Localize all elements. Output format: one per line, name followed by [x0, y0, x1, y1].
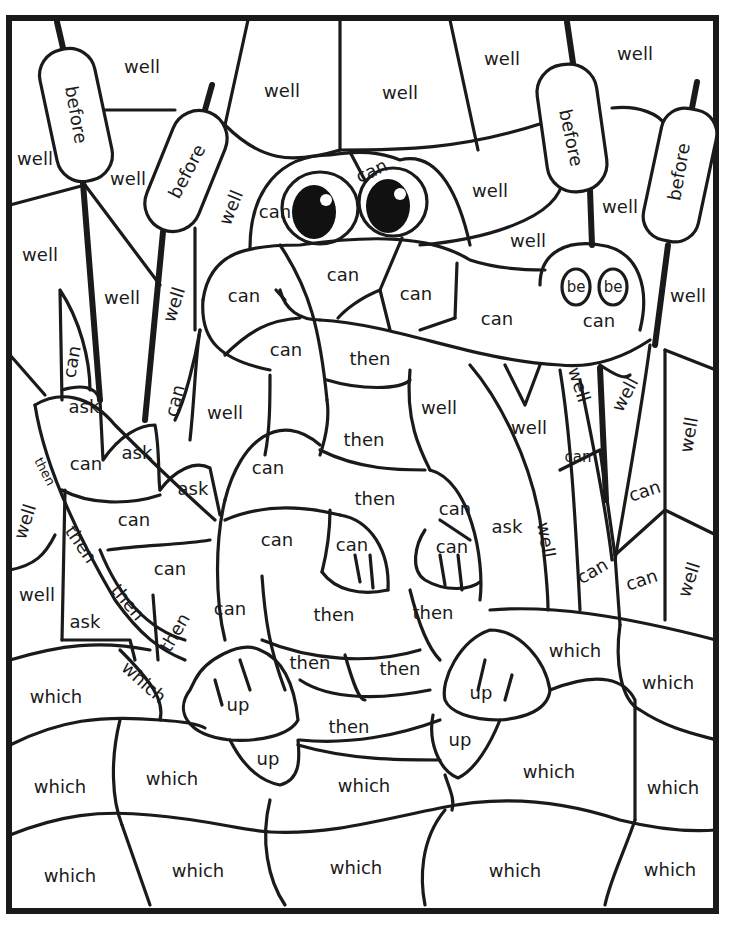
word-label-can: can	[583, 310, 615, 331]
word-label-well: well	[511, 417, 547, 438]
word-label-can: can	[228, 285, 260, 306]
left-pupil	[292, 185, 336, 239]
word-label-can: can	[118, 509, 150, 530]
word-label-can: can	[259, 201, 291, 222]
word-label-then: then	[344, 429, 385, 450]
word-label-well: well	[533, 520, 560, 559]
coloring-sheet: wellwellwellwellwellbeforebeforebeforebe…	[0, 0, 733, 930]
word-label-then: then	[314, 604, 355, 625]
word-label-then: then	[155, 609, 194, 655]
word-label-well: well	[510, 230, 546, 251]
word-label-then: then	[290, 652, 331, 673]
word-label-which: which	[338, 775, 390, 796]
word-label-well: well	[564, 364, 595, 405]
word-label-can: can	[58, 344, 84, 379]
word-label-well: well	[675, 415, 702, 454]
word-label-be: be	[567, 278, 586, 296]
word-label-can: can	[214, 598, 246, 619]
word-label-which: which	[172, 860, 224, 881]
word-label-well: well	[158, 284, 189, 325]
word-label-well: well	[214, 187, 247, 228]
word-label-can: can	[70, 453, 102, 474]
crocodile-illustration: wellwellwellwellwellbeforebeforebeforebe…	[0, 0, 733, 930]
word-label-well: well	[670, 285, 706, 306]
word-label-can: can	[336, 534, 368, 555]
word-label-can: can	[481, 308, 513, 329]
word-label-then: then	[380, 658, 421, 679]
word-label-then: then	[350, 348, 391, 369]
word-label-up: up	[257, 748, 280, 769]
word-label-which: which	[523, 761, 575, 782]
word-label-which: which	[34, 776, 86, 797]
word-label-can: can	[400, 283, 432, 304]
word-label-can: can	[439, 498, 471, 519]
word-label-well: well	[617, 43, 653, 64]
word-label-well: well	[673, 559, 704, 600]
word-label-well: well	[22, 244, 58, 265]
word-label-which: which	[642, 672, 694, 693]
word-label-be: be	[604, 278, 623, 296]
word-label-well: well	[207, 402, 243, 423]
word-label-well: well	[124, 56, 160, 77]
word-label-well: well	[602, 196, 638, 217]
word-label-well: well	[472, 180, 508, 201]
word-label-ask: ask	[178, 478, 209, 499]
word-label-which: which	[489, 860, 541, 881]
word-label-well: well	[264, 80, 300, 101]
word-label-up: up	[449, 729, 472, 750]
right-pupil	[366, 179, 410, 233]
word-label-can: can	[154, 558, 186, 579]
word-label-then: then	[355, 488, 396, 509]
word-label-which: which	[549, 640, 601, 661]
word-label-ask: ask	[122, 442, 153, 463]
word-label-which: which	[146, 768, 198, 789]
word-label-then: then	[329, 716, 370, 737]
word-label-can: can	[270, 339, 302, 360]
word-label-ask: ask	[492, 516, 523, 537]
word-label-well: well	[19, 584, 55, 605]
word-label-which: which	[644, 859, 696, 880]
word-label-which: which	[647, 777, 699, 798]
word-label-which: which	[330, 857, 382, 878]
word-label-well: well	[110, 168, 146, 189]
word-label-well: well	[484, 48, 520, 69]
word-label-can: can	[261, 529, 293, 550]
word-label-well: well	[421, 397, 457, 418]
word-label-well: well	[17, 148, 53, 169]
word-label-well: well	[382, 82, 418, 103]
word-label-then: then	[413, 602, 454, 623]
word-label-can: can	[623, 565, 660, 595]
word-label-can: can	[327, 264, 359, 285]
word-label-well: well	[104, 287, 140, 308]
word-label-then: then	[31, 455, 58, 488]
word-label-can: can	[252, 457, 284, 478]
word-label-can: can	[626, 476, 663, 506]
word-label-can: can	[565, 448, 592, 466]
word-label-then: then	[61, 521, 102, 567]
word-label-up: up	[227, 694, 250, 715]
word-label-up: up	[470, 682, 493, 703]
word-label-can: can	[160, 382, 189, 419]
word-label-can: can	[436, 536, 468, 557]
word-label-which: which	[30, 686, 82, 707]
word-label-well: well	[607, 374, 642, 415]
word-label-well: well	[9, 501, 40, 542]
word-label-ask: ask	[69, 396, 100, 417]
word-label-which: which	[44, 865, 96, 886]
word-label-which: which	[117, 657, 170, 708]
word-label-ask: ask	[70, 611, 101, 632]
